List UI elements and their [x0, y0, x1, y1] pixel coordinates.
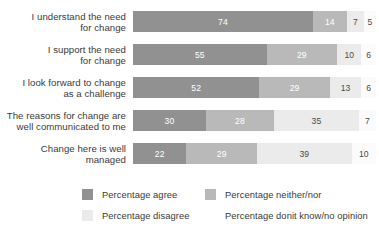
stacked-bar-chart: I understand the need for change741475I …: [0, 0, 379, 230]
bar-segment-disagree: 35: [274, 110, 359, 131]
category-label: I understand the need for change: [0, 10, 126, 33]
category-label: Change here is well managed: [0, 142, 126, 165]
legend-item-disagree: Percentage disagree: [82, 208, 189, 222]
legend-item-neither-nor: Percentage neither/nor: [205, 187, 321, 201]
bar-segment-agree: 52: [133, 77, 259, 98]
legend-label-neither-nor: Percentage neither/nor: [225, 189, 321, 200]
legend-swatch-neither-nor-icon: [205, 189, 216, 200]
category-label: The reasons for change are well communic…: [0, 109, 126, 132]
bar-row: I understand the need for change741475: [0, 11, 379, 32]
bar-track: 741475: [133, 11, 376, 32]
legend-item-agree: Percentage agree: [82, 187, 177, 201]
bar-segment-dont-know: 6: [361, 77, 376, 98]
bar-segment-neither-nor: 29: [259, 77, 329, 98]
bar-segment-dont-know: 5: [364, 11, 376, 32]
legend-swatch-dont-know-icon: [205, 210, 216, 221]
bar-track: 5529106: [133, 44, 376, 65]
bar-segment-disagree: 10: [337, 44, 361, 65]
category-label: I support the need for change: [0, 43, 126, 66]
bar-segment-dont-know: 7: [359, 110, 376, 131]
bar-segment-agree: 30: [133, 110, 206, 131]
bar-segment-disagree: 39: [257, 143, 352, 164]
legend-label-dont-know: Percentage donit know/no opinion: [225, 210, 368, 221]
bar-segment-neither-nor: 28: [206, 110, 274, 131]
bar-segment-agree: 55: [133, 44, 267, 65]
bar-segment-dont-know: 6: [361, 44, 376, 65]
bar-segment-neither-nor: 29: [186, 143, 256, 164]
bar-segment-neither-nor: 29: [267, 44, 337, 65]
legend-label-agree: Percentage agree: [102, 189, 177, 200]
category-label: I look forward to change as a challenge: [0, 76, 126, 99]
bar-row: I look forward to change as a challenge5…: [0, 77, 379, 98]
bar-segment-disagree: 13: [330, 77, 362, 98]
legend-label-disagree: Percentage disagree: [102, 210, 189, 221]
bar-track: 5229136: [133, 77, 376, 98]
bar-segment-disagree: 7: [347, 11, 364, 32]
plot-area: I understand the need for change741475I …: [0, 11, 379, 177]
bar-row: The reasons for change are well communic…: [0, 110, 379, 131]
legend-swatch-disagree-icon: [82, 210, 93, 221]
bar-row: Change here is well managed22293910: [0, 143, 379, 164]
bar-segment-agree: 22: [133, 143, 186, 164]
bar-segment-agree: 74: [133, 11, 313, 32]
bar-track: 22293910: [133, 143, 376, 164]
legend-item-dont-know: Percentage donit know/no opinion: [205, 208, 368, 222]
legend-swatch-agree-icon: [82, 189, 93, 200]
bar-segment-neither-nor: 14: [313, 11, 347, 32]
bar-track: 3028357: [133, 110, 376, 131]
bar-row: I support the need for change5529106: [0, 44, 379, 65]
chart-legend: Percentage agree Percentage neither/nor …: [0, 185, 379, 230]
bar-segment-dont-know: 10: [352, 143, 376, 164]
